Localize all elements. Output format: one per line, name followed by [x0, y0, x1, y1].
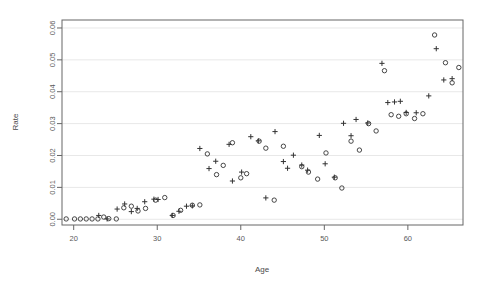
data-point-circle [349, 139, 353, 143]
series-plus-markers [96, 46, 455, 221]
x-tick-label: 20 [70, 234, 78, 243]
data-point-plus [414, 110, 419, 115]
data-point-circle [324, 151, 328, 155]
data-point-circle [457, 65, 461, 69]
y-tick-label: 0.02 [48, 148, 57, 163]
data-point-plus [353, 117, 358, 122]
y-tick-label: 0.06 [48, 21, 57, 36]
data-point-circle [129, 204, 133, 208]
y-tick-label: 0.04 [48, 84, 57, 99]
data-point-plus [115, 206, 120, 211]
data-point-plus [184, 204, 189, 209]
data-point-circle [281, 144, 285, 148]
data-point-plus [291, 153, 296, 158]
x-tick-label: 40 [237, 234, 245, 243]
scatter-plot-figure: 2030405060 0.000.010.020.030.040.050.06 … [0, 0, 483, 281]
data-point-plus [129, 209, 134, 214]
data-point-plus [434, 46, 439, 51]
data-point-circle [102, 215, 106, 219]
data-point-plus [272, 129, 277, 134]
data-point-circle [163, 195, 167, 199]
data-point-circle [214, 172, 218, 176]
data-point-circle [264, 146, 268, 150]
x-tick-label: 30 [153, 234, 161, 243]
data-point-circle [239, 176, 243, 180]
y-tick-label: 0.01 [48, 180, 57, 195]
data-point-plus [426, 93, 431, 98]
y-axis-tick-labels: 0.000.010.020.030.040.050.06 [48, 21, 57, 227]
x-axis-label: Age [255, 265, 270, 274]
data-point-plus [213, 159, 218, 164]
data-point-circle [374, 129, 378, 133]
data-point-plus [323, 161, 328, 166]
data-point-circle [221, 163, 225, 167]
data-point-plus [230, 178, 235, 183]
data-point-plus [379, 61, 384, 66]
x-tick-label: 50 [320, 234, 328, 243]
y-axis-label: Rate [11, 113, 20, 130]
data-point-circle [136, 209, 140, 213]
data-point-plus [248, 134, 253, 139]
y-tick-label: 0.05 [48, 53, 57, 68]
data-point-circle [382, 68, 386, 72]
data-point-circle [333, 176, 337, 180]
data-point-circle [315, 177, 319, 181]
data-point-circle [396, 114, 400, 118]
data-point-plus [197, 146, 202, 151]
plot-border [62, 20, 463, 225]
x-axis-tick-labels: 2030405060 [70, 234, 413, 243]
chart-canvas: 2030405060 0.000.010.020.030.040.050.06 … [0, 0, 483, 281]
series-circle-markers [64, 33, 461, 221]
data-point-circle [421, 112, 425, 116]
data-point-plus [142, 199, 147, 204]
data-point-plus [285, 166, 290, 171]
data-point-circle [357, 148, 361, 152]
data-point-circle [198, 203, 202, 207]
y-axis-ticks [57, 28, 62, 219]
data-point-plus [392, 99, 397, 104]
data-point-plus [441, 77, 446, 82]
data-point-circle [230, 141, 234, 145]
data-point-circle [122, 206, 126, 210]
data-point-circle [244, 171, 248, 175]
data-point-plus [317, 133, 322, 138]
data-point-circle [272, 198, 276, 202]
x-axis-ticks [74, 225, 408, 230]
data-point-plus [281, 159, 286, 164]
data-point-plus [206, 166, 211, 171]
data-point-circle [340, 186, 344, 190]
y-tick-label: 0.00 [48, 212, 57, 227]
data-point-plus [135, 206, 140, 211]
data-point-plus [385, 100, 390, 105]
data-point-circle [143, 206, 147, 210]
data-point-plus [348, 133, 353, 138]
data-point-circle [443, 61, 447, 65]
data-point-circle [432, 33, 436, 37]
x-tick-label: 60 [404, 234, 412, 243]
data-point-plus [341, 121, 346, 126]
data-point-circle [450, 81, 454, 85]
y-tick-label: 0.03 [48, 116, 57, 131]
data-point-circle [389, 112, 393, 116]
grid-lines [62, 28, 463, 219]
data-point-plus [239, 169, 244, 174]
plot-frame [62, 20, 463, 225]
data-point-plus [263, 195, 268, 200]
data-point-circle [412, 116, 416, 120]
data-point-plus [398, 99, 403, 104]
